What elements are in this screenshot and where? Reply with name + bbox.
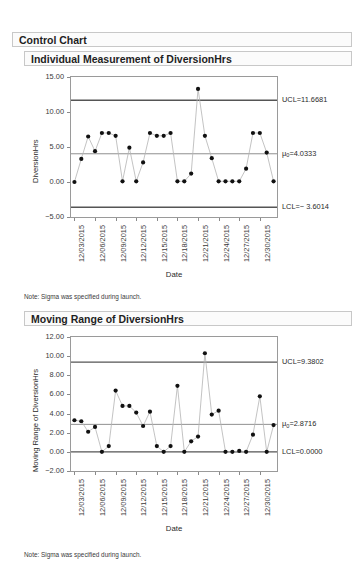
x-axis-tick-mark xyxy=(157,472,158,475)
control-chart-report: Control Chart Individual Measurement of … xyxy=(0,0,364,562)
x-axis-tick-mark xyxy=(239,218,240,221)
y-axis-tick-label: 5.00 xyxy=(24,143,64,151)
chart-2-title: Moving Range of DiversionHrs xyxy=(25,313,184,325)
data-point xyxy=(230,450,234,454)
x-axis-tick-mark xyxy=(177,218,178,221)
data-point xyxy=(251,131,255,135)
data-point xyxy=(182,179,186,183)
x-axis-tick-mark xyxy=(95,218,96,221)
x-axis-title: Date xyxy=(70,270,278,279)
data-point xyxy=(155,134,159,138)
y-axis-tick-label: −2.00 xyxy=(24,467,64,475)
data-point xyxy=(251,433,255,437)
x-axis-tick-label: 12/12/2015 xyxy=(139,225,148,262)
x-axis-tick-mark xyxy=(95,472,96,475)
individual-measurement-chart: 15.0010.005.000.00−5.00DiversionHrs12/03… xyxy=(24,70,354,305)
data-point xyxy=(141,160,145,164)
y-axis-tick-label: 10.00 xyxy=(24,352,64,360)
series-line xyxy=(74,89,273,182)
y-axis-tick-label: 15.00 xyxy=(24,73,64,81)
chart-2-title-bar[interactable]: Moving Range of DiversionHrs xyxy=(24,311,352,326)
data-point xyxy=(86,134,90,138)
x-axis-tick-label: 12/21/2015 xyxy=(201,225,210,262)
y-axis-tick-mark xyxy=(67,414,70,415)
x-axis-tick-label: 12/27/2015 xyxy=(242,479,251,516)
x-axis-tick-mark xyxy=(198,472,199,475)
data-point xyxy=(168,131,172,135)
y-axis-tick-label: 10.00 xyxy=(24,108,64,116)
data-point xyxy=(72,180,76,184)
control-limit-label-center: μ0=4.0333 xyxy=(282,150,316,158)
data-point xyxy=(223,450,227,454)
x-axis-tick-mark xyxy=(157,218,158,221)
data-point xyxy=(230,179,234,183)
y-axis-tick-mark xyxy=(67,394,70,395)
data-point xyxy=(162,450,166,454)
data-point xyxy=(107,131,111,135)
y-axis-title: Moving Range of DiversionHrs xyxy=(31,369,40,472)
data-point xyxy=(120,179,124,183)
report-title-bar[interactable]: Control Chart xyxy=(12,32,352,47)
x-axis-tick-mark xyxy=(116,472,117,475)
data-point xyxy=(203,351,207,355)
x-axis-tick-label: 12/03/2015 xyxy=(77,225,86,262)
y-axis-tick-label: 0.00 xyxy=(24,448,64,456)
x-axis-tick-label: 12/03/2015 xyxy=(77,479,86,516)
data-point xyxy=(237,449,241,453)
data-point xyxy=(162,134,166,138)
y-axis-tick-label: 8.00 xyxy=(24,371,64,379)
data-point xyxy=(79,157,83,161)
data-point xyxy=(265,450,269,454)
data-point xyxy=(271,179,275,183)
y-axis-tick-mark xyxy=(67,77,70,78)
data-point xyxy=(258,131,262,135)
chart-1-title-bar[interactable]: Individual Measurement of DiversionHrs xyxy=(24,51,352,66)
data-point xyxy=(237,179,241,183)
data-point xyxy=(217,179,221,183)
data-point xyxy=(79,419,83,423)
y-axis-tick-mark xyxy=(67,147,70,148)
data-point xyxy=(114,389,118,393)
data-point xyxy=(196,87,200,91)
plot-area xyxy=(70,76,278,218)
data-point xyxy=(148,131,152,135)
data-point xyxy=(244,167,248,171)
x-axis-tick-label: 12/09/2015 xyxy=(119,479,128,516)
data-point xyxy=(72,418,76,422)
data-point xyxy=(107,444,111,448)
series-line xyxy=(74,353,273,452)
x-axis-tick-mark xyxy=(260,472,261,475)
y-axis-tick-label: 4.00 xyxy=(24,410,64,418)
x-axis-tick-mark xyxy=(239,472,240,475)
control-limit-label-ucl: UCL=9.3802 xyxy=(282,358,324,366)
y-axis-tick-mark xyxy=(67,356,70,357)
x-axis-tick-mark xyxy=(219,218,220,221)
data-point xyxy=(196,434,200,438)
data-point xyxy=(134,179,138,183)
y-axis-tick-label: 6.00 xyxy=(24,390,64,398)
data-point xyxy=(271,423,275,427)
x-axis-tick-label: 12/15/2015 xyxy=(160,479,169,516)
data-point xyxy=(127,146,131,150)
x-axis-tick-label: 12/27/2015 xyxy=(242,225,251,262)
y-axis-tick-mark xyxy=(67,433,70,434)
data-point xyxy=(148,410,152,414)
x-axis-tick-mark xyxy=(136,218,137,221)
y-axis-title: DiversionHrs xyxy=(31,140,40,183)
y-axis-tick-mark xyxy=(67,112,70,113)
y-axis-tick-mark xyxy=(67,337,70,338)
x-axis-tick-label: 12/30/2015 xyxy=(263,225,272,262)
x-axis-title: Date xyxy=(70,524,278,533)
x-axis-tick-mark xyxy=(198,218,199,221)
y-axis-tick-mark xyxy=(67,452,70,453)
data-point xyxy=(210,412,214,416)
control-limit-label-lcl: LCL=0.0000 xyxy=(282,448,322,456)
plot-area xyxy=(70,336,278,472)
x-axis-tick-label: 12/06/2015 xyxy=(98,225,107,262)
x-axis-tick-mark xyxy=(219,472,220,475)
x-axis-tick-label: 12/09/2015 xyxy=(119,225,128,262)
y-axis-tick-label: 2.00 xyxy=(24,429,64,437)
x-axis-tick-mark xyxy=(74,218,75,221)
x-axis-tick-label: 12/21/2015 xyxy=(201,479,210,516)
data-point xyxy=(175,179,179,183)
